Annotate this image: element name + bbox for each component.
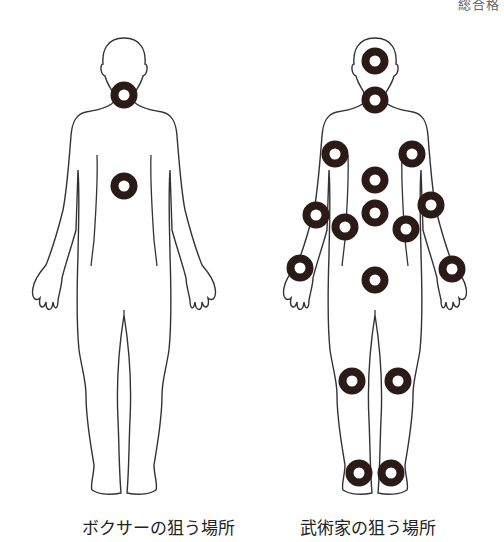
target-marker-abdomen bbox=[366, 204, 385, 223]
target-marker-right-knee bbox=[343, 372, 362, 391]
martial-artist-caption: 武術家の狙う場所 bbox=[300, 514, 436, 539]
target-marker-neck bbox=[115, 86, 134, 105]
target-marker-left-flank bbox=[397, 220, 416, 239]
target-marker-right-elbow bbox=[307, 206, 326, 225]
target-marker-solar-plexus bbox=[115, 177, 134, 196]
target-marker-right-shoulder bbox=[326, 145, 345, 164]
target-marker-left-elbow bbox=[422, 196, 441, 215]
body-diagrams bbox=[0, 0, 504, 542]
target-marker-right-ankle bbox=[350, 464, 369, 483]
target-marker-right-flank bbox=[336, 218, 355, 237]
target-marker-left-ankle bbox=[382, 464, 401, 483]
target-marker-neck bbox=[366, 91, 385, 110]
boxer-caption: ボクサーの狙う場所 bbox=[82, 514, 235, 539]
target-marker-chest bbox=[366, 171, 385, 190]
target-marker-head bbox=[366, 52, 385, 71]
target-marker-right-wrist bbox=[291, 259, 310, 278]
target-marker-groin bbox=[366, 271, 385, 290]
target-marker-left-shoulder bbox=[403, 145, 422, 164]
target-marker-left-wrist bbox=[443, 260, 462, 279]
target-marker-left-knee bbox=[389, 372, 408, 391]
